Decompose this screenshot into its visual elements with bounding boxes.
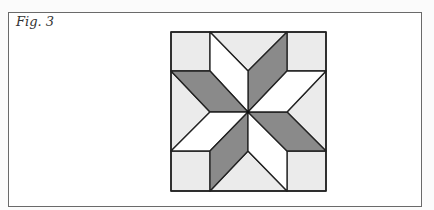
quilt-block-diagram [0,0,434,210]
corner-square-bottom-right [287,151,326,191]
corner-square-bottom-left [171,151,210,191]
center-point [247,111,250,114]
corner-square-top-right [287,32,326,71]
corner-square-top-left [171,32,210,71]
